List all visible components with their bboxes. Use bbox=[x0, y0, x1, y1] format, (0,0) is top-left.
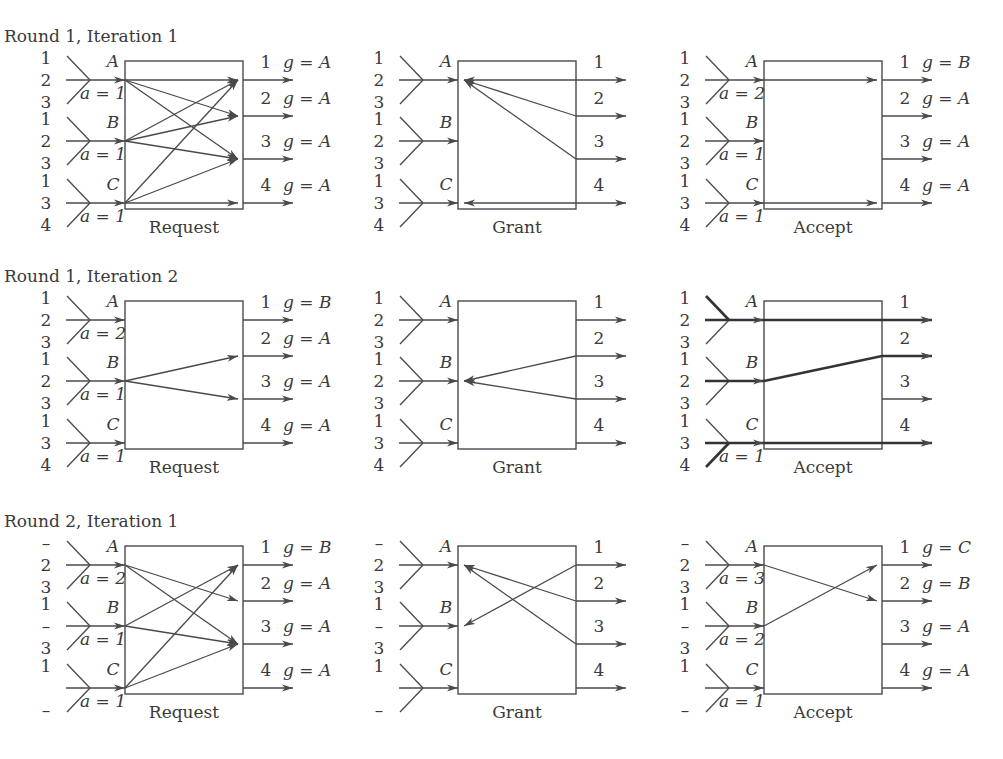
output-name: 1 bbox=[261, 537, 272, 557]
panel-grant: Grant123A123B134C1234 bbox=[374, 288, 626, 477]
grant-pointer: g = A bbox=[922, 660, 970, 680]
request-edge bbox=[125, 356, 238, 381]
queue-label: – bbox=[375, 616, 384, 636]
switch-box bbox=[458, 301, 576, 449]
output-name: 1 bbox=[261, 52, 272, 72]
switch-box bbox=[764, 546, 882, 694]
input-B: 123Ba = 1 bbox=[41, 109, 126, 173]
input-B: 123B bbox=[374, 109, 458, 173]
output-4: 4 bbox=[576, 660, 626, 688]
output-2: 2g = B bbox=[882, 573, 970, 601]
input-B: 123B bbox=[374, 349, 458, 413]
panel-request: Request123Aa = 2123Ba = 1134Ca = 11g = B… bbox=[41, 288, 332, 477]
input-A: 123A bbox=[374, 48, 458, 112]
panel-caption: Request bbox=[149, 702, 219, 722]
accept-pointer: a = 1 bbox=[80, 206, 126, 226]
input-B: 1–3B bbox=[374, 594, 458, 658]
panel-grant: Grant123A123B134C1234 bbox=[374, 48, 626, 237]
output-name: 4 bbox=[594, 660, 605, 680]
accept-pointer: a = 1 bbox=[80, 691, 126, 711]
input-name: C bbox=[745, 174, 758, 194]
output-name: 2 bbox=[900, 328, 911, 348]
request-edge bbox=[125, 141, 238, 159]
input-name: A bbox=[438, 291, 452, 311]
fork-upper bbox=[400, 419, 423, 443]
input-name: A bbox=[744, 291, 758, 311]
fork-upper bbox=[67, 541, 90, 565]
output-name: 4 bbox=[594, 175, 605, 195]
queue-label: 2 bbox=[374, 70, 385, 90]
output-3: 3g = A bbox=[243, 371, 331, 399]
queue-label: 1 bbox=[680, 411, 691, 431]
input-name: A bbox=[105, 291, 119, 311]
input-name: B bbox=[106, 597, 120, 617]
grant-pointer: g = A bbox=[922, 616, 970, 636]
output-4: 4 bbox=[576, 415, 626, 443]
input-name: B bbox=[439, 352, 453, 372]
queue-label: 4 bbox=[374, 215, 385, 235]
input-A: –23A bbox=[374, 533, 458, 597]
row-2: Round 1, Iteration 2Request123Aa = 2123B… bbox=[4, 266, 932, 477]
panel-accept: Accept123A123B134Ca = 11234 bbox=[680, 288, 932, 477]
queue-label: 3 bbox=[374, 393, 385, 413]
grant-pointer: g = B bbox=[283, 292, 331, 312]
queue-label: 1 bbox=[41, 656, 52, 676]
input-B: 123B bbox=[680, 349, 764, 413]
panel-accept: Accept123Aa = 2123Ba = 1134Ca = 11g = B2… bbox=[680, 48, 971, 237]
queue-label: 3 bbox=[41, 193, 52, 213]
input-A: 123Aa = 1 bbox=[41, 48, 126, 112]
input-name: A bbox=[438, 536, 452, 556]
queue-label: 2 bbox=[41, 555, 52, 575]
input-C: 134Ca = 1 bbox=[41, 411, 126, 475]
fork-lower bbox=[400, 320, 423, 344]
queue-label: 3 bbox=[41, 153, 52, 173]
input-name: C bbox=[106, 659, 119, 679]
grant-pointer: g = A bbox=[922, 175, 970, 195]
fork-upper bbox=[706, 419, 729, 443]
queue-label: – bbox=[681, 616, 690, 636]
accept-pointer: a = 2 bbox=[80, 568, 126, 588]
fork-lower bbox=[706, 381, 729, 405]
accept-pointer: a = 1 bbox=[80, 384, 126, 404]
grant-pointer: g = A bbox=[283, 52, 331, 72]
queue-label: – bbox=[375, 700, 384, 720]
output-name: 1 bbox=[594, 52, 605, 72]
input-A: 123Aa = 2 bbox=[680, 48, 765, 112]
queue-label: 3 bbox=[680, 393, 691, 413]
fork-upper bbox=[67, 56, 90, 80]
output-1: 1g = B bbox=[243, 292, 331, 320]
output-1: 1 bbox=[882, 292, 932, 320]
output-4: 4g = A bbox=[243, 660, 331, 688]
queue-label: 3 bbox=[680, 433, 691, 453]
output-name: 4 bbox=[261, 660, 272, 680]
input-name: B bbox=[106, 352, 120, 372]
request-edge bbox=[125, 381, 238, 399]
output-1: 1g = B bbox=[882, 52, 970, 80]
accept-pointer: a = 1 bbox=[80, 446, 126, 466]
queue-label: 2 bbox=[680, 310, 691, 330]
request-edge bbox=[125, 626, 238, 644]
queue-label: – bbox=[681, 533, 690, 553]
queue-label: 1 bbox=[374, 171, 385, 191]
panel-request: Request–23Aa = 21–3Ba = 11–Ca = 11g = B2… bbox=[41, 533, 332, 722]
output-name: 2 bbox=[261, 88, 272, 108]
fork-lower bbox=[400, 80, 423, 104]
input-C: 1–Ca = 1 bbox=[41, 656, 126, 720]
output-3: 3g = A bbox=[882, 616, 970, 644]
grant-edge bbox=[464, 80, 576, 159]
output-name: 4 bbox=[594, 415, 605, 435]
input-name: B bbox=[439, 112, 453, 132]
input-name: B bbox=[745, 352, 759, 372]
queue-label: 1 bbox=[374, 349, 385, 369]
fork-upper bbox=[400, 357, 423, 381]
queue-label: 3 bbox=[41, 638, 52, 658]
queue-label: 1 bbox=[41, 288, 52, 308]
queue-label: 2 bbox=[374, 555, 385, 575]
queue-label: 3 bbox=[374, 638, 385, 658]
input-A: 123A bbox=[374, 288, 458, 352]
queue-label: 1 bbox=[680, 288, 691, 308]
input-name: C bbox=[745, 659, 758, 679]
output-3: 3 bbox=[576, 371, 626, 399]
fork-upper bbox=[400, 179, 423, 203]
output-1: 1 bbox=[576, 52, 626, 80]
